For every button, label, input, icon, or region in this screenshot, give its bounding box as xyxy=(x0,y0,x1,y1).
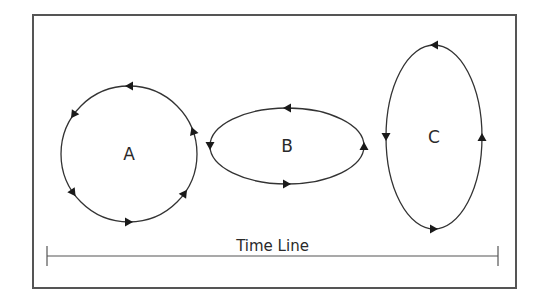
cycle-label: C xyxy=(428,127,440,147)
direction-arrow-icon xyxy=(360,142,369,150)
cycle-a: A xyxy=(61,82,198,227)
direction-arrow-icon xyxy=(206,142,215,150)
direction-arrow-icon xyxy=(125,218,133,227)
cycle-label: A xyxy=(123,144,135,164)
diagram-canvas: ABC Time Line xyxy=(0,0,541,308)
direction-arrow-icon xyxy=(283,104,291,113)
direction-arrow-icon xyxy=(283,180,291,189)
cycle-b: B xyxy=(206,104,369,189)
direction-arrow-icon xyxy=(478,133,487,141)
direction-arrow-icon xyxy=(430,41,438,50)
direction-arrow-icon xyxy=(179,190,187,199)
cycle-shapes: ABC xyxy=(61,41,487,234)
cycle-c: C xyxy=(382,41,487,234)
direction-arrow-icon xyxy=(125,82,133,91)
timeline: Time Line xyxy=(47,237,498,266)
direction-arrow-icon xyxy=(382,133,391,141)
direction-arrow-icon xyxy=(71,109,79,118)
direction-arrow-icon xyxy=(430,225,438,234)
direction-arrow-icon xyxy=(67,187,75,196)
timeline-label: Time Line xyxy=(235,237,309,255)
cycle-label: B xyxy=(281,136,293,156)
